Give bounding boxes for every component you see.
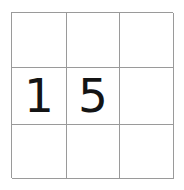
grid-cell-r3c3[interactable] <box>120 125 174 179</box>
grid-cell-r3c1[interactable] <box>12 125 67 179</box>
number-grid: 1 5 <box>11 12 173 178</box>
grid-cell-r1c1[interactable] <box>12 13 67 68</box>
grid-cell-r2c3[interactable] <box>120 68 174 125</box>
cell-value-r2c2: 5 <box>78 72 108 119</box>
grid-cell-r1c3[interactable] <box>120 13 174 68</box>
grid-cell-r2c2[interactable]: 5 <box>67 68 120 125</box>
grid-cell-r1c2[interactable] <box>67 13 120 68</box>
grid-cell-r3c2[interactable] <box>67 125 120 179</box>
grid-cell-r2c1[interactable]: 1 <box>12 68 67 125</box>
cell-value-r2c1: 1 <box>24 72 54 119</box>
